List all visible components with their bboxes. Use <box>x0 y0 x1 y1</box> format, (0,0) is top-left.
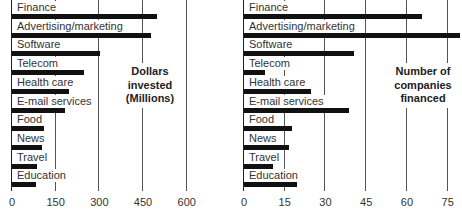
bar <box>243 51 354 56</box>
category-label: Telecom <box>17 57 60 70</box>
category-label: E-mail services <box>17 95 94 108</box>
bar <box>243 33 460 38</box>
category-label: E-mail services <box>249 95 326 108</box>
bar <box>11 70 84 75</box>
x-tick-label: 150 <box>46 196 64 208</box>
bar-row: E-mail services <box>11 95 231 114</box>
bar-row: Travel <box>11 151 231 170</box>
bar-row: Health care <box>243 76 462 95</box>
bar <box>11 51 100 56</box>
category-label: Finance <box>17 1 58 14</box>
x-tick-label: 450 <box>134 196 152 208</box>
category-label: Education <box>249 169 300 182</box>
x-tick-label: 15 <box>279 196 291 208</box>
bar-row: Finance <box>243 1 462 20</box>
x-tick-label: 0 <box>241 196 247 208</box>
category-label: Finance <box>249 1 290 14</box>
bar-row: News <box>11 132 231 151</box>
bar <box>11 89 69 94</box>
bar <box>243 164 273 169</box>
bar-row: Telecom <box>243 57 462 76</box>
bar <box>11 182 36 187</box>
bar <box>11 33 151 38</box>
bar-row: Advertising/marketing <box>11 20 231 39</box>
category-label: News <box>249 132 279 145</box>
bar-row: Travel <box>243 151 462 170</box>
x-tick-label: 600 <box>178 196 196 208</box>
bar <box>11 14 157 19</box>
category-label: Telecom <box>249 57 292 70</box>
bar-row: Food <box>243 113 462 132</box>
companies-financed-chart: 01530456075Number ofcompaniesfinancedFin… <box>243 0 462 217</box>
category-label: Advertising/marketing <box>249 20 357 33</box>
category-label: Travel <box>249 151 281 164</box>
category-label: Advertising/marketing <box>17 20 125 33</box>
bar <box>243 89 311 94</box>
x-tick-label: 60 <box>401 196 413 208</box>
x-tick-label: 45 <box>360 196 372 208</box>
category-label: Travel <box>17 151 49 164</box>
x-tick-label: 300 <box>90 196 108 208</box>
bar <box>243 70 265 75</box>
bar <box>243 108 349 113</box>
bar-row: E-mail services <box>243 95 462 114</box>
bar-row: Telecom <box>11 57 231 76</box>
category-label: Health care <box>17 76 75 89</box>
bar-row: Software <box>11 38 231 57</box>
category-label: Education <box>17 169 68 182</box>
bar <box>11 164 37 169</box>
bar <box>11 108 65 113</box>
x-tick-label: 75 <box>442 196 454 208</box>
bar-row: Education <box>243 169 462 188</box>
bar-row: Health care <box>11 76 231 95</box>
category-label: Software <box>249 38 294 51</box>
bar-row: Food <box>11 113 231 132</box>
bar <box>11 126 44 131</box>
category-label: News <box>17 132 47 145</box>
category-label: Health care <box>249 76 307 89</box>
bar <box>243 182 297 187</box>
dollars-invested-chart: 0150300450600Dollarsinvested(Millions)Fi… <box>11 0 231 217</box>
x-tick-label: 30 <box>319 196 331 208</box>
category-label: Food <box>249 113 276 126</box>
bar-row: News <box>243 132 462 151</box>
bar-row: Education <box>11 169 231 188</box>
bar <box>243 145 289 150</box>
bar-row: Software <box>243 38 462 57</box>
bar <box>243 126 292 131</box>
bar-row: Advertising/marketing <box>243 20 462 39</box>
y-axis-line <box>11 0 12 191</box>
category-label: Software <box>17 38 62 51</box>
y-axis-line <box>243 0 244 191</box>
category-label: Food <box>17 113 44 126</box>
bar <box>243 14 422 19</box>
bar <box>11 145 42 150</box>
x-tick-label: 0 <box>9 196 15 208</box>
bar-row: Finance <box>11 1 231 20</box>
